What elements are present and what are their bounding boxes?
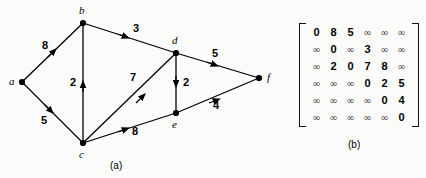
matrix-left-bracket [299, 23, 306, 127]
graph-node-c [80, 140, 86, 146]
graph-node-d [173, 50, 179, 56]
edge-arrow-d-f [207, 62, 215, 65]
edge-weight-d-f: 5 [212, 48, 218, 59]
matrix-cell-5-0: ∞ [308, 109, 325, 126]
edge-weight-b-d: 3 [133, 23, 139, 34]
matrix-cell-1-5: ∞ [393, 41, 410, 58]
matrix-cell-3-4: 2 [376, 75, 393, 92]
matrix-cell-2-1: 2 [325, 58, 342, 75]
matrix-cell-1-0: ∞ [308, 41, 325, 58]
matrix-cell-0-3: ∞ [359, 24, 376, 41]
matrix-cell-0-2: 5 [342, 24, 359, 41]
edge-weight-a-b: 8 [42, 40, 48, 51]
matrix-cell-3-5: 5 [393, 75, 410, 92]
matrix-cell-2-3: 7 [359, 58, 376, 75]
node-label-a: a [9, 76, 15, 87]
matrix-cell-0-0: 0 [308, 24, 325, 41]
matrix-cell-4-1: ∞ [325, 92, 342, 109]
edge-line-b-d [83, 23, 176, 53]
graph-panel: a b c d e f 8 5 3 2 7 8 2 5 4 (a) [0, 0, 285, 178]
matrix-cell-1-2: ∞ [342, 41, 359, 58]
matrix-cell-4-0: ∞ [308, 92, 325, 109]
matrix-grid: 0 8 5 ∞ ∞ ∞ ∞ 0 ∞ 3 ∞ ∞ ∞ 2 0 7 8 ∞ ∞ ∞ [306, 23, 412, 127]
graph-drawing [0, 0, 285, 178]
matrix-cell-3-1: ∞ [325, 75, 342, 92]
matrix-cell-0-1: 8 [325, 24, 342, 41]
matrix-cell-4-4: 0 [376, 92, 393, 109]
matrix-cell-3-3: 0 [359, 75, 376, 92]
matrix-cell-0-5: ∞ [393, 24, 410, 41]
matrix-cell-2-0: ∞ [308, 58, 325, 75]
matrix-cell-5-1: ∞ [325, 109, 342, 126]
matrix-cell-3-2: ∞ [342, 75, 359, 92]
matrix-cell-2-2: 0 [342, 58, 359, 75]
matrix-panel-caption: (b) [348, 140, 360, 150]
matrix-cell-2-5: ∞ [393, 58, 410, 75]
matrix-panel: 0 8 5 ∞ ∞ ∞ ∞ 0 ∞ 3 ∞ ∞ ∞ 2 0 7 8 ∞ ∞ ∞ [285, 0, 426, 178]
matrix-cell-4-2: ∞ [342, 92, 359, 109]
node-label-e: e [172, 119, 177, 130]
node-label-f: f [267, 72, 270, 83]
matrix-cell-1-3: 3 [359, 41, 376, 58]
matrix-cell-5-2: ∞ [342, 109, 359, 126]
matrix-cell-0-4: ∞ [376, 24, 393, 41]
edge-weight-a-c: 5 [41, 115, 47, 126]
matrix-right-bracket [412, 23, 419, 127]
edge-weight-c-b: 2 [70, 77, 76, 88]
matrix-cell-4-3: ∞ [359, 92, 376, 109]
edge-arrow-c-d [136, 96, 143, 103]
matrix-cell-5-3: ∞ [359, 109, 376, 126]
matrix-cell-1-1: 0 [325, 41, 342, 58]
edge-weight-c-d: 7 [130, 72, 136, 83]
edge-weight-c-e: 8 [132, 126, 138, 137]
graph-node-b [80, 20, 86, 26]
node-label-c: c [79, 149, 84, 160]
figure-root: a b c d e f 8 5 3 2 7 8 2 5 4 (a) 0 8 5 … [0, 0, 426, 178]
edge-arrow-b-d [118, 34, 126, 37]
matrix-cell-5-4: ∞ [376, 109, 393, 126]
edge-arrow-a-c [45, 105, 51, 111]
edge-weight-e-f: 4 [213, 100, 219, 111]
matrix-container: 0 8 5 ∞ ∞ ∞ ∞ 0 ∞ 3 ∞ ∞ ∞ 2 0 7 8 ∞ ∞ ∞ [299, 23, 419, 127]
matrix-cell-4-5: 4 [393, 92, 410, 109]
graph-node-f [256, 75, 262, 81]
edge-line-c-e [83, 113, 176, 143]
graph-node-a [19, 79, 25, 85]
edge-weight-d-e: 2 [183, 77, 189, 88]
edge-line-a-c [22, 82, 83, 143]
matrix-cell-5-5: 0 [393, 109, 410, 126]
edge-line-c-d [83, 53, 176, 143]
matrix-cell-3-0: ∞ [308, 75, 325, 92]
graph-node-e [173, 110, 179, 116]
matrix-cell-1-4: ∞ [376, 41, 393, 58]
node-label-b: b [79, 5, 85, 16]
edge-arrow-c-e [118, 129, 126, 132]
matrix-cell-2-4: 8 [376, 58, 393, 75]
graph-panel-caption: (a) [110, 161, 122, 171]
edge-arrow-a-b [48, 51, 54, 57]
node-label-d: d [172, 35, 178, 46]
